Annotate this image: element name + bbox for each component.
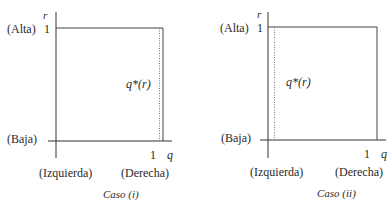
panel-2-x-left-label: (Izquierda) [250, 166, 303, 178]
panel-2-y-top-label: (Alta) [220, 22, 249, 34]
panel-2-y-top-value: 1 [257, 22, 263, 34]
panel-2-caption: Caso (ii) [317, 187, 356, 199]
panel-1-x-right-value: 1 [150, 149, 156, 161]
panel-2-x-right-value: 1 [364, 148, 370, 160]
panel-2-x-axis-var: q [381, 148, 387, 160]
panel-1-curve-label: q*(r) [126, 78, 151, 90]
panel-2-x-right-label: (Derecha) [335, 166, 383, 178]
panel-1-x-axis-var: q [167, 149, 173, 161]
panel-1-x-right-label: (Derecha) [121, 167, 169, 179]
panel-1-graphics [48, 12, 172, 158]
panel-1-y-bottom-label: (Baja) [7, 133, 37, 145]
panel-2-graphics [260, 12, 386, 158]
panel-2-y-bottom-label: (Baja) [221, 132, 251, 144]
panel-1-x-left-label: (Izquierda) [39, 167, 92, 179]
panel-1-y-top-label: (Alta) [7, 23, 36, 35]
panel-1-y-top-value: 1 [44, 23, 50, 35]
panel-2-curve-label: q*(r) [286, 76, 311, 88]
panel-1-caption: Caso (i) [103, 188, 139, 200]
panel-2-y-axis-var: r [257, 8, 261, 20]
panel-1-y-axis-var: r [43, 9, 47, 21]
